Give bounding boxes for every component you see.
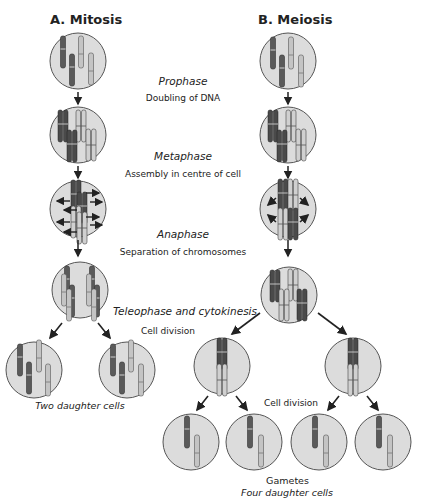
gamete-cell-3 <box>291 414 347 470</box>
meiosis-first-division-cell-1 <box>194 338 250 396</box>
mitosis-result-label: Two daughter cells <box>30 400 130 411</box>
arrow-icon <box>328 396 339 410</box>
phase-telophase-description: Cell division <box>138 326 198 336</box>
mitosis-prophase-start-cell <box>50 33 106 89</box>
arrow-icon <box>98 323 110 338</box>
phase-metaphase-description: Assembly in centre of cell <box>103 169 263 179</box>
gametes-label: Gametes <box>250 475 325 486</box>
second-division-label: Cell division <box>258 398 324 408</box>
mitosis-metaphase-cell <box>50 180 106 244</box>
meiosis-prophase-start-cell <box>260 33 316 89</box>
phase-telophase: Teleophase and cytokinesis <box>113 305 253 317</box>
meiosis-anaphase-cell <box>261 267 317 323</box>
gamete-cell-2 <box>226 414 282 470</box>
meiosis-metaphase-cell <box>260 179 316 240</box>
meiosis-title: B. Meiosis <box>258 12 332 27</box>
phase-prophase-description: Doubling of DNA <box>113 93 253 103</box>
phase-prophase: Prophase <box>133 75 233 87</box>
arrow-icon <box>236 396 247 410</box>
gamete-cell-4 <box>355 414 411 470</box>
mitosis-prophase-doubled-cell <box>50 107 106 163</box>
mitosis-anaphase-cell <box>52 262 108 321</box>
mitosis-daughter-cell-2 <box>99 340 155 398</box>
arrow-icon <box>50 323 62 338</box>
phase-anaphase-description: Separation of chromosomes <box>103 247 263 257</box>
meiosis-first-division-cell-2 <box>325 338 381 396</box>
phase-anaphase: Anaphase <box>133 228 233 240</box>
mitosis-title: A. Mitosis <box>50 12 122 27</box>
meiosis-result-label: Four daughter cells <box>237 487 337 498</box>
arrow-icon <box>367 396 378 410</box>
meiosis-prophase-doubled-cell <box>260 107 316 163</box>
arrow-icon <box>318 313 346 334</box>
gamete-cell-1 <box>163 414 219 470</box>
phase-metaphase: Metaphase <box>133 150 233 162</box>
mitosis-daughter-cell-1 <box>6 340 62 398</box>
arrow-icon <box>197 396 208 410</box>
